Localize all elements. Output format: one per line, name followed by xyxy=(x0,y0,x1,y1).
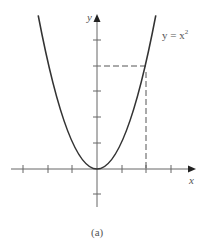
curve-label: y = x2 xyxy=(162,29,188,41)
curve-label-text: y = x xyxy=(162,29,185,41)
x-axis-label: x xyxy=(189,175,194,186)
y-axis-arrow-icon xyxy=(94,14,101,22)
figure-caption: (a) xyxy=(91,227,103,238)
x-axis-arrow-icon xyxy=(188,166,196,173)
y-axis-label: y xyxy=(87,12,92,23)
curve-label-exponent: 2 xyxy=(185,28,189,36)
